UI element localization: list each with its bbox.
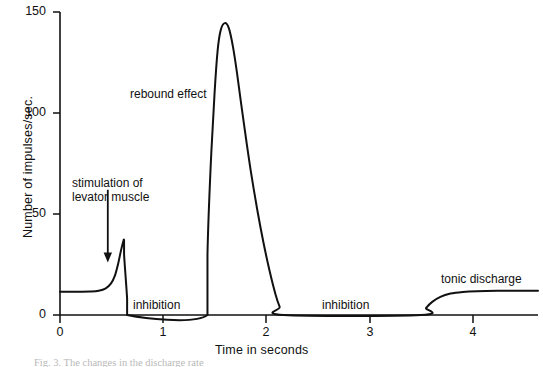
annotation-stimulation-line2: levator muscle: [72, 191, 149, 205]
y-axis-ticks: [53, 12, 60, 315]
figure-container: Number of impulses/sec. Time in seconds …: [0, 0, 543, 367]
y-tick-label-150: 150: [6, 4, 46, 18]
annotation-tonic-discharge: tonic discharge: [441, 273, 522, 287]
x-tick-label-1: 1: [148, 325, 178, 339]
annotation-rebound-effect: rebound effect: [130, 88, 207, 102]
figure-caption: Fig. 3. The changes in the discharge rat…: [34, 357, 204, 367]
annotation-inhibition-second: inhibition: [322, 299, 369, 313]
y-tick-label-50: 50: [6, 206, 46, 220]
x-tick-label-4: 4: [458, 325, 488, 339]
annotation-inhibition-first: inhibition: [133, 299, 180, 313]
y-axis-title: Number of impulses/sec.: [21, 77, 35, 257]
x-axis-title: Time in seconds: [215, 343, 309, 357]
annotation-stimulation-line1: stimulation of: [72, 177, 149, 191]
x-tick-label-0: 0: [45, 325, 75, 339]
y-tick-label-0: 0: [6, 307, 46, 321]
annotation-stimulation: stimulation of levator muscle: [72, 177, 149, 204]
x-tick-label-3: 3: [355, 325, 385, 339]
x-tick-label-2: 2: [251, 325, 281, 339]
y-tick-label-100: 100: [6, 105, 46, 119]
